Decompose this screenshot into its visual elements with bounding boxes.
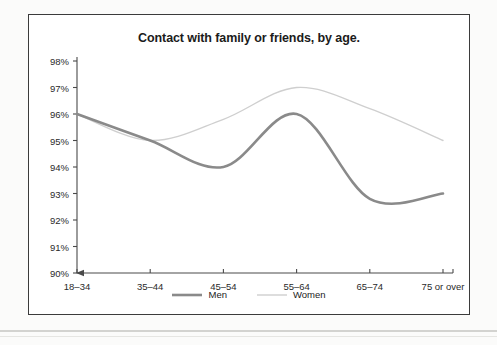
- series-line-men: [77, 114, 443, 204]
- scanned-page-background: Contact with family or friends, by age. …: [0, 0, 497, 345]
- y-tick-label: 92%: [29, 215, 69, 226]
- y-tick-label: 90%: [29, 268, 69, 279]
- y-tick-label: 93%: [29, 188, 69, 199]
- x-axis: [76, 269, 453, 276]
- y-tick-label: 95%: [29, 135, 69, 146]
- y-tick-label: 97%: [29, 82, 69, 93]
- page-edge-line-secondary: [0, 336, 497, 337]
- legend-swatch-women: [257, 291, 287, 299]
- page-edge-line: [0, 330, 497, 332]
- chart-frame: Contact with family or friends, by age. …: [28, 14, 470, 315]
- legend-item-men: Men: [172, 289, 226, 300]
- y-tick-label: 94%: [29, 162, 69, 173]
- legend-label-men: Men: [208, 289, 226, 300]
- data-series-group: [77, 87, 443, 203]
- legend-swatch-men: [172, 291, 202, 299]
- y-tick-label: 96%: [29, 109, 69, 120]
- chart-canvas: [29, 15, 471, 316]
- chart-legend: Men Women: [29, 289, 469, 300]
- legend-label-women: Women: [293, 289, 326, 300]
- y-axis: [73, 57, 77, 273]
- legend-item-women: Women: [257, 289, 326, 300]
- y-tick-label: 91%: [29, 241, 69, 252]
- y-tick-label: 98%: [29, 56, 69, 67]
- plot-area: 98%97%96%95%94%93%92%91%90% 18–3435–4445…: [29, 15, 471, 316]
